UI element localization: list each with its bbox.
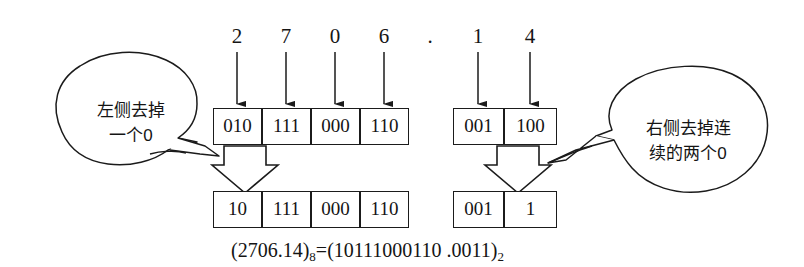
radix-point-label: . [417,26,443,47]
top-integer-cell-0: 010 [213,108,262,145]
formula-binary-open: ( [327,239,334,261]
octal-digit-2: 0 [322,26,348,47]
top-fraction-cell-1: 100 [504,108,557,145]
bottom-integer-cell-3: 110 [360,191,409,228]
top-integer-cell-1: 111 [262,108,311,145]
conversion-formula: (2706.14)8=(10111000110 .0011)2 [231,238,504,265]
block-arrow-left [212,146,278,193]
octal-digit-3: 6 [371,26,397,47]
block-arrow-right [485,146,551,193]
formula-binary-base: 2 [498,249,505,264]
formula-octal-base: 8 [309,249,316,264]
bottom-integer-cell-2: 000 [311,191,360,228]
bottom-integer-cell-0: 10 [213,191,262,228]
formula-equals: = [316,239,327,261]
figure-canvas: 2 7 0 6 . 1 4 010 111 000 110 001 100 10… [0,0,804,267]
octal-digit-5: 4 [517,26,543,47]
formula-binary-value: 10111000110 .0011 [334,239,491,261]
top-integer-cell-2: 000 [311,108,360,145]
top-fraction-cell-0: 001 [453,108,504,145]
formula-octal-value: 2706.14 [238,239,303,261]
octal-digit-4: 1 [465,26,491,47]
formula-octal-open: ( [231,239,238,261]
octal-digit-1: 7 [273,26,299,47]
formula-binary-close: ) [491,239,498,261]
bottom-integer-cell-1: 111 [262,191,311,228]
callout-right-text: 右侧去掉连 续的两个0 [620,116,756,166]
bottom-fraction-cell-1: 1 [504,191,557,228]
bottom-fraction-cell-0: 001 [453,191,504,228]
top-integer-cell-3: 110 [360,108,409,145]
digit-pointer-arrows [237,52,530,104]
octal-digit-0: 2 [224,26,250,47]
callout-left-text: 左侧去掉 一个0 [72,98,190,148]
